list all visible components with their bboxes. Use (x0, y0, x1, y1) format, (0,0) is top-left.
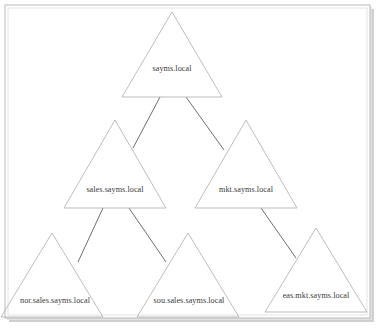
domain-tree-diagram: sayms.local sales.sayms.local mkt.sayms.… (0, 0, 383, 333)
domain-label: mkt.sayms.local (219, 185, 274, 194)
domain-label: eas.mkt.sayms.local (283, 291, 350, 300)
domain-label: nor.sales.sayms.local (20, 296, 91, 305)
diagram-canvas: sayms.local sales.sayms.local mkt.sayms.… (0, 0, 383, 333)
domain-label: sales.sayms.local (86, 185, 144, 194)
domain-label: sou.sales.sayms.local (154, 296, 226, 305)
frame-border (5, 5, 370, 318)
domain-label: sayms.local (153, 64, 193, 73)
